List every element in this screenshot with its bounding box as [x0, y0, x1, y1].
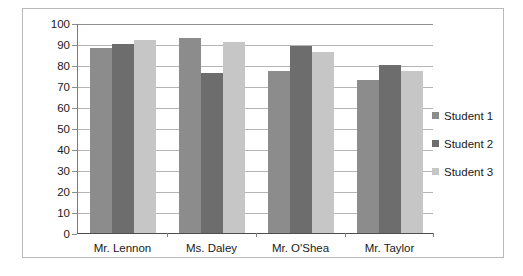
bar-student-3[interactable]: [312, 52, 334, 233]
bar-student-1[interactable]: [179, 38, 201, 233]
bar-student-3[interactable]: [401, 71, 423, 233]
bar-student-1[interactable]: [90, 48, 112, 233]
bar-group: [345, 24, 434, 233]
legend-swatch-icon: [432, 140, 439, 147]
y-tick-label: 80: [26, 61, 70, 73]
bar-student-3[interactable]: [134, 40, 156, 233]
legend-swatch-icon: [432, 168, 439, 175]
y-tick-label: 50: [26, 124, 70, 136]
bar-group: [167, 24, 256, 233]
y-tick-label: 20: [26, 187, 70, 199]
plot-area: Mr. Lennon Ms. Daley Mr. O'Shea Mr. Tayl…: [77, 24, 433, 234]
bar-group: [256, 24, 345, 233]
y-tick-label: 0: [26, 229, 70, 241]
bar-student-2[interactable]: [112, 44, 134, 233]
x-tick-mark: [256, 233, 257, 237]
x-tick-mark: [433, 233, 434, 237]
y-tick-label: 100: [26, 19, 70, 31]
legend-swatch-icon: [432, 112, 439, 119]
y-tick-label: 30: [26, 166, 70, 178]
y-tick-label: 10: [26, 208, 70, 220]
x-tick-mark: [167, 233, 168, 237]
y-tick-label: 40: [26, 145, 70, 157]
legend-label: Student 2: [444, 138, 493, 150]
legend-item-student-1[interactable]: Student 1: [432, 104, 522, 127]
legend-label: Student 1: [444, 110, 493, 122]
bar-group: [78, 24, 167, 233]
bar-student-1[interactable]: [268, 71, 290, 233]
bar-student-2[interactable]: [290, 46, 312, 233]
chart-frame: 100 90 80 70 60 50 40 30 20 10 0: [22, 8, 504, 258]
legend-item-student-3[interactable]: Student 3: [432, 160, 522, 183]
x-tick-mark: [345, 233, 346, 237]
bar-student-2[interactable]: [201, 73, 223, 233]
y-tick-label: 60: [26, 103, 70, 115]
legend-item-student-2[interactable]: Student 2: [432, 132, 522, 155]
y-tick-label: 90: [26, 40, 70, 52]
x-axis-label-daley: Ms. Daley: [167, 242, 256, 254]
legend-label: Student 3: [444, 166, 493, 178]
y-tick-label: 70: [26, 82, 70, 94]
bar-student-1[interactable]: [357, 80, 379, 233]
x-axis-label-oshea: Mr. O'Shea: [256, 242, 345, 254]
x-axis-label-taylor: Mr. Taylor: [345, 242, 434, 254]
y-tick-mark: [72, 234, 77, 235]
x-axis-label-lennon: Mr. Lennon: [78, 242, 167, 254]
bar-student-3[interactable]: [223, 42, 245, 233]
bar-student-2[interactable]: [379, 65, 401, 233]
chart-legend: Student 1 Student 2 Student 3: [432, 104, 522, 188]
